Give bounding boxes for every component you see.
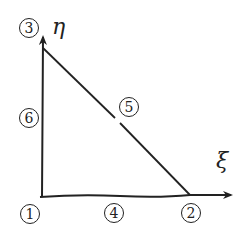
node-number-2: 2 [187,206,196,220]
xi-axis-label: ξ [216,150,228,172]
edge-5-2 [120,123,190,195]
triangle-element-diagram: 1 2 3 4 5 6 η ξ [0,0,244,242]
node-label-5: 5 [119,97,139,117]
xi-axis-line [40,195,231,197]
node-label-1: 1 [20,204,40,224]
node-label-4: 4 [104,203,124,223]
node-number-5: 5 [125,100,134,114]
node-number-1: 1 [26,207,35,221]
node-number-6: 6 [25,111,34,125]
eta-axis-label: η [52,16,65,38]
node-number-4: 4 [110,206,119,220]
edge-3-5 [43,48,115,118]
node-label-2: 2 [181,203,201,223]
eta-axis-line [42,37,43,197]
node-label-6: 6 [19,108,39,128]
node-label-3: 3 [19,18,39,38]
node-number-3: 3 [25,21,34,35]
